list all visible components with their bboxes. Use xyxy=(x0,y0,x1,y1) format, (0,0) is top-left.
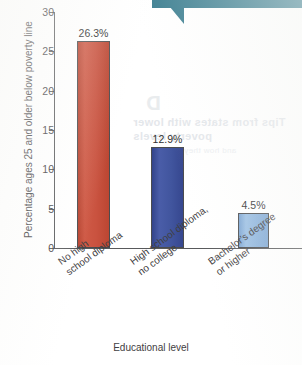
bar-chart: 051015202530 Percentage ages 25 and olde… xyxy=(0,0,302,365)
bar-value-label-2: 4.5% xyxy=(226,199,281,211)
bar-value-label-0: 26.3% xyxy=(65,27,122,39)
y-axis-line xyxy=(54,12,55,249)
x-axis-title: Educational level xyxy=(0,342,302,353)
bar-value-label-1: 12.9% xyxy=(139,133,196,145)
y-axis-title: Percentage ages 25 and older below pover… xyxy=(23,6,34,254)
bar-0 xyxy=(77,41,110,248)
